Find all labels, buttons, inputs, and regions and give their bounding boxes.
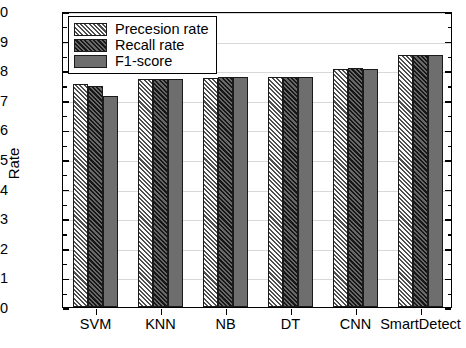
y-tick-minor [63,205,67,206]
gridline [63,13,451,14]
y-tick-minor [448,264,452,265]
y-tick [445,279,451,281]
y-tick [63,12,69,14]
legend-swatch-recall [74,39,107,52]
y-tick-minor [448,234,452,235]
x-tick [161,309,163,315]
bar-cnn-f1 [363,69,378,307]
bar-knn-f1 [168,79,183,308]
y-tick-minor [63,146,67,147]
x-tick-label-smartdetect: SmartDetect [380,316,461,332]
gridline [63,131,451,132]
gridline [63,102,451,103]
bar-cnn-precision [333,69,348,307]
y-tick-minor [448,27,452,28]
bar-smartdetect-precision [398,55,413,307]
bar-cnn-recall [348,68,363,307]
bar-svm-precision [73,84,88,307]
y-tick [445,160,451,162]
y-tick [63,308,69,310]
y-tick-label: 0.8 [0,64,8,79]
y-tick-label: 0.6 [0,123,8,138]
y-tick-minor [448,205,452,206]
x-tick-label-svm: SVM [80,316,111,332]
legend-item-recall: Recall rate [74,37,209,53]
y-tick-minor [63,86,67,87]
y-tick [445,12,451,14]
y-tick [63,190,69,192]
gridline [63,279,451,280]
y-tick [63,249,69,251]
x-tick [356,309,358,315]
y-tick-minor [63,27,67,28]
legend-swatch-precision [74,23,107,36]
y-tick [445,190,451,192]
y-tick-label: 0.7 [0,94,8,109]
x-tick [291,309,293,315]
gridline [63,191,451,192]
legend-item-precision: Precesion rate [74,21,209,37]
x-tick-label-nb: NB [215,316,235,332]
bar-smartdetect-f1 [428,55,443,307]
bar-knn-recall [153,79,168,307]
x-tick [96,309,98,315]
x-tick [226,309,228,315]
y-tick-label: 0.9 [0,35,8,50]
chart-legend: Precesion rateRecall rateF1-score [68,16,217,74]
bar-nb-recall [218,77,233,307]
x-tick-label-knn: KNN [145,316,176,332]
y-tick [445,101,451,103]
bar-nb-f1 [233,77,248,307]
bar-nb-precision [203,78,218,307]
legend-label-f1: F1-score [115,54,172,69]
y-tick [63,160,69,162]
y-tick-minor [63,294,67,295]
y-tick-minor [448,86,452,87]
y-tick-minor [63,234,67,235]
y-tick-label: 0.5 [0,153,8,168]
y-tick-minor [448,175,452,176]
y-tick [445,249,451,251]
y-tick [63,101,69,103]
y-tick-label: 0.2 [0,242,8,257]
y-tick [63,219,69,221]
bar-dt-f1 [298,77,313,307]
y-tick-minor [63,175,67,176]
legend-label-precision: Precesion rate [115,22,209,37]
gridline [63,250,451,251]
bar-svm-f1 [103,96,118,307]
gridline [63,220,451,221]
legend-swatch-f1 [74,55,107,68]
bar-smartdetect-recall [413,55,428,307]
y-tick-minor [63,57,67,58]
y-tick-label: 0.4 [0,183,8,198]
y-tick-minor [448,116,452,117]
bar-knn-precision [138,79,153,308]
y-tick-minor [448,57,452,58]
y-tick-minor [448,146,452,147]
y-tick-label: 0.3 [0,212,8,227]
y-tick [445,308,451,310]
y-tick-minor [63,116,67,117]
y-tick [445,131,451,133]
y-tick [445,42,451,44]
y-tick [445,71,451,73]
y-tick-minor [448,294,452,295]
y-tick-label: 0.1 [0,271,8,286]
bar-svm-recall [88,86,103,307]
x-tick-label-dt: DT [281,316,300,332]
bar-chart: Rate SVMKNNNBDTCNNSmartDetect 0.00.10.20… [0,0,466,348]
y-tick-minor [63,264,67,265]
y-tick [63,131,69,133]
legend-label-recall: Recall rate [115,38,184,53]
y-tick-label: 0.0 [0,301,8,316]
x-tick-label-cnn: CNN [340,316,371,332]
legend-item-f1: F1-score [74,53,209,69]
x-tick [421,309,423,315]
y-tick [63,279,69,281]
bar-dt-precision [268,77,283,307]
bar-dt-recall [283,77,298,307]
gridline [63,161,451,162]
y-tick [445,219,451,221]
y-tick-label: 1.0 [0,5,8,20]
